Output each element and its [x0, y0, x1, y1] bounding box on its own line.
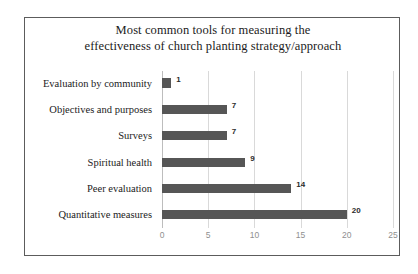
x-axis-tick-labels: 0510152025 [162, 230, 393, 246]
bar-row[interactable]: 9 [162, 150, 393, 176]
category-label: Objectives and purposes [25, 97, 156, 123]
bar-row[interactable]: 14 [162, 176, 393, 202]
chart-frame: Most common tools for measuring the effe… [24, 17, 400, 256]
bar[interactable] [162, 210, 347, 219]
category-label: Quantitative measures [25, 202, 156, 228]
bar-value-label: 14 [296, 180, 305, 189]
plot-area: 17791420 [162, 71, 393, 228]
x-tick-label: 10 [250, 230, 259, 240]
x-tick-label: 5 [206, 230, 211, 240]
category-label: Spiritual health [25, 150, 156, 176]
bar-value-label: 20 [352, 206, 361, 215]
bar[interactable] [162, 158, 245, 167]
x-tick-label: 25 [388, 230, 397, 240]
bar-value-label: 9 [250, 154, 254, 163]
category-label: Surveys [25, 123, 156, 149]
bar[interactable] [162, 105, 227, 114]
category-axis-labels: Evaluation by communityObjectives and pu… [25, 71, 156, 228]
category-label: Evaluation by community [25, 71, 156, 97]
gridline-25 [393, 71, 394, 228]
bar-row[interactable]: 7 [162, 97, 393, 123]
x-tick-label: 0 [160, 230, 165, 240]
bar-value-label: 7 [232, 127, 236, 136]
bar[interactable] [162, 78, 171, 88]
chart-title: Most common tools for measuring the effe… [31, 23, 395, 54]
bar-row[interactable]: 7 [162, 123, 393, 149]
bar-value-label: 7 [232, 101, 236, 110]
bar-row[interactable]: 20 [162, 202, 393, 228]
bar[interactable] [162, 131, 227, 140]
x-tick-label: 20 [342, 230, 351, 240]
bar-row[interactable]: 1 [162, 71, 393, 97]
category-label: Peer evaluation [25, 176, 156, 202]
chart-title-line-1: Most common tools for measuring the [31, 23, 395, 39]
x-tick-label: 15 [296, 230, 305, 240]
bar[interactable] [162, 184, 291, 193]
bar-value-label: 1 [176, 75, 180, 84]
chart-title-line-2: effectiveness of church planting strateg… [31, 39, 395, 55]
